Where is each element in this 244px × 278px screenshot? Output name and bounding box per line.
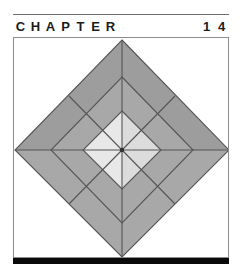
chapter-letter: A bbox=[43, 20, 58, 33]
chapter-letter: H bbox=[28, 20, 43, 33]
chapter-number: 1 4 bbox=[199, 20, 229, 33]
chapter-letter: R bbox=[103, 20, 118, 33]
quilt-block-illustration bbox=[14, 38, 229, 258]
chapter-heading: C H A P T E R 1 4 bbox=[13, 18, 229, 35]
chapter-letter: C bbox=[13, 20, 28, 33]
center-hub-dot bbox=[120, 148, 124, 152]
figure-frame bbox=[13, 37, 229, 258]
chapter-letter: P bbox=[58, 20, 73, 33]
chapter-number-digit: 4 bbox=[214, 20, 229, 33]
chapter-opener-page: C H A P T E R 1 4 bbox=[0, 0, 244, 278]
header-divider-rule bbox=[13, 14, 229, 15]
chapter-number-digit: 1 bbox=[199, 20, 214, 33]
chapter-letter: E bbox=[88, 20, 103, 33]
chapter-word: C H A P T E R bbox=[13, 20, 118, 33]
bottom-black-bar bbox=[13, 258, 229, 264]
chapter-letter: T bbox=[73, 20, 88, 33]
